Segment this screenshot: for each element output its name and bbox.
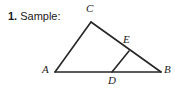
segment-CB — [91, 22, 161, 72]
segment-AC — [55, 22, 91, 72]
vertex-label-b: B — [164, 64, 171, 75]
vertex-label-a: A — [42, 64, 49, 75]
figure-screenshot: 1.Sample: A B C D E — [0, 0, 175, 90]
vertex-label-d: D — [108, 75, 116, 86]
segment-DE — [112, 51, 129, 72]
vertex-label-c: C — [86, 3, 93, 14]
vertex-label-e: E — [123, 34, 130, 45]
